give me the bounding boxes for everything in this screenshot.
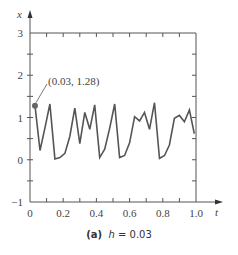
x-axis-arrow-icon — [215, 200, 223, 205]
figure-caption: (a) h = 0.03 — [0, 229, 238, 240]
line-chart: 00.20.40.60.81.0−10123 (0.03, 1.28) x t — [0, 0, 238, 229]
y-axis-label: x — [16, 8, 22, 20]
caption-variable: h — [108, 229, 114, 240]
axes — [28, 10, 224, 205]
caption-label: (a) — [86, 229, 102, 240]
y-tick-label: 2 — [18, 69, 24, 81]
y-axis-arrow-icon — [28, 10, 33, 18]
x-tick-label: 1.0 — [189, 207, 203, 219]
caption-value: = 0.03 — [118, 229, 152, 240]
x-tick-label: 0.4 — [90, 207, 104, 219]
x-axis-label: t — [215, 206, 219, 218]
y-tick-label: 1 — [18, 112, 24, 124]
annotation-label: (0.03, 1.28) — [48, 75, 100, 88]
x-tick-label: 0.6 — [123, 207, 137, 219]
y-tick-label: 0 — [18, 154, 24, 166]
x-tick-label: 0 — [27, 207, 33, 219]
x-tick-label: 0.2 — [56, 207, 70, 219]
x-tick-label: 0.8 — [156, 207, 170, 219]
tick-labels: 00.20.40.60.81.0−10123 — [11, 27, 203, 219]
data-line — [35, 103, 194, 159]
y-tick-label: −1 — [11, 196, 23, 208]
annotation-leader-line — [36, 84, 47, 103]
y-tick-label: 3 — [18, 27, 24, 39]
annotation-point — [32, 103, 38, 109]
